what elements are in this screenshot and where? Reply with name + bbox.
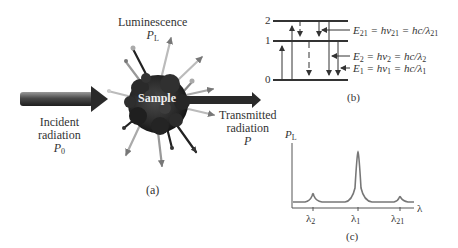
tick-lambda-1: λ1 xyxy=(351,212,360,228)
level-2-label: 2 xyxy=(265,14,271,27)
level-1-label: 1 xyxy=(265,34,271,47)
tick-lambda-2: λ2 xyxy=(306,212,315,228)
y-axis-label: PL xyxy=(285,128,297,144)
caption-c: (c) xyxy=(346,230,358,243)
sample-label: Sample xyxy=(138,92,176,105)
x-axis-label: λ xyxy=(417,202,422,215)
equation-e1: E1 = hν1 = hc/λ1 xyxy=(353,62,426,78)
incident-radiation-label: Incident radiation P0 xyxy=(38,116,81,158)
caption-b: (b) xyxy=(347,91,360,104)
level-0-label: 0 xyxy=(265,73,271,86)
spectrum-curve xyxy=(293,152,414,202)
luminescence-label: Luminescence PL xyxy=(118,16,187,45)
incident-arrow xyxy=(20,86,108,112)
spectrum-chart xyxy=(292,143,414,211)
transmitted-radiation-label: Transmitted radiation P xyxy=(219,109,277,148)
caption-a: (a) xyxy=(146,184,159,197)
tick-lambda-21: λ21 xyxy=(391,212,404,228)
equation-e21: E21 = hν21 = hc/λ21 xyxy=(353,24,438,40)
energy-level-diagram xyxy=(273,21,350,80)
